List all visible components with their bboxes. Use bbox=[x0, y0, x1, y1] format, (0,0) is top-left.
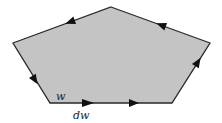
pentagon-region bbox=[13, 7, 210, 103]
label-dw: dw bbox=[73, 109, 90, 122]
contour-diagram: w dw bbox=[0, 0, 222, 123]
label-w: w bbox=[56, 90, 66, 103]
